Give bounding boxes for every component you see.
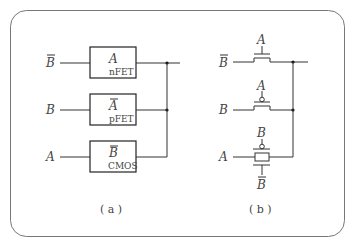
gate-label-a: A — [256, 33, 266, 47]
block-type-label: nFET — [109, 67, 134, 77]
block-control-label: B — [108, 146, 118, 160]
gate-label-a: A — [256, 79, 266, 93]
input-label-a: A — [218, 150, 228, 164]
input-label-a: A — [45, 150, 55, 164]
block-control-label: A — [108, 99, 118, 113]
gate-label-b: B — [256, 126, 266, 140]
panel-a-caption: ( a ) — [100, 203, 122, 216]
input-label-b-bar: B — [218, 56, 228, 70]
block-control-label: A — [108, 52, 118, 66]
figure-frame — [11, 11, 345, 237]
panel-b-caption: ( b ) — [249, 203, 272, 216]
figure-canvas: B A nFET B A pFET A B CMOS — [0, 0, 356, 247]
block-type-label: CMOS — [108, 161, 138, 171]
input-label-b-bar: B — [45, 56, 55, 70]
block-type-label: pFET — [109, 114, 134, 124]
gate-label-b-bar: B — [256, 178, 266, 192]
input-label-b: B — [218, 103, 228, 117]
input-label-b: B — [45, 103, 55, 117]
